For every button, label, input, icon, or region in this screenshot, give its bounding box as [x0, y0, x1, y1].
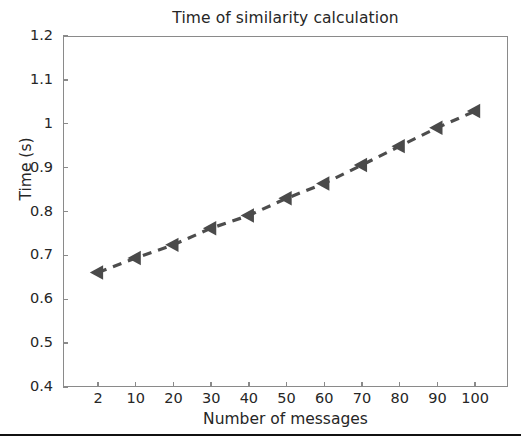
x-tick-mark [361, 382, 362, 387]
y-tick-label: 1 [7, 115, 53, 131]
bottom-divider [0, 434, 521, 436]
y-tick-label: 0.7 [7, 246, 53, 262]
plot-area [63, 36, 508, 387]
x-tick-label: 100 [450, 390, 500, 406]
y-tick-label: 1.1 [7, 71, 53, 87]
y-tick-mark [63, 386, 68, 387]
y-tick-mark [63, 35, 68, 36]
chart-title: Time of similarity calculation [63, 9, 508, 27]
x-tick-mark [248, 382, 249, 387]
y-tick-mark [63, 79, 68, 80]
y-tick-mark [63, 123, 68, 124]
y-tick-label: 0.4 [7, 378, 53, 394]
x-tick-mark [97, 382, 98, 387]
y-tick-mark [63, 167, 68, 168]
x-tick-mark [286, 382, 287, 387]
y-tick-mark [63, 211, 68, 212]
plot-inner [64, 37, 507, 386]
y-tick-label: 0.8 [7, 203, 53, 219]
y-tick-mark [63, 342, 68, 343]
x-tick-mark [399, 382, 400, 387]
x-tick-mark [324, 382, 325, 387]
y-tick-mark [63, 255, 68, 256]
x-tick-mark [173, 382, 174, 387]
x-axis-label: Number of messages [63, 410, 508, 428]
x-tick-mark [474, 382, 475, 387]
x-tick-mark [437, 382, 438, 387]
x-tick-mark [210, 382, 211, 387]
y-tick-label: 0.6 [7, 290, 53, 306]
y-tick-mark [63, 299, 68, 300]
x-tick-mark [135, 382, 136, 387]
chart-figure: Time of similarity calculation Time (s) … [0, 0, 521, 447]
y-tick-label: 0.5 [7, 334, 53, 350]
y-tick-label: 1.2 [7, 27, 53, 43]
y-tick-label: 0.9 [7, 159, 53, 175]
